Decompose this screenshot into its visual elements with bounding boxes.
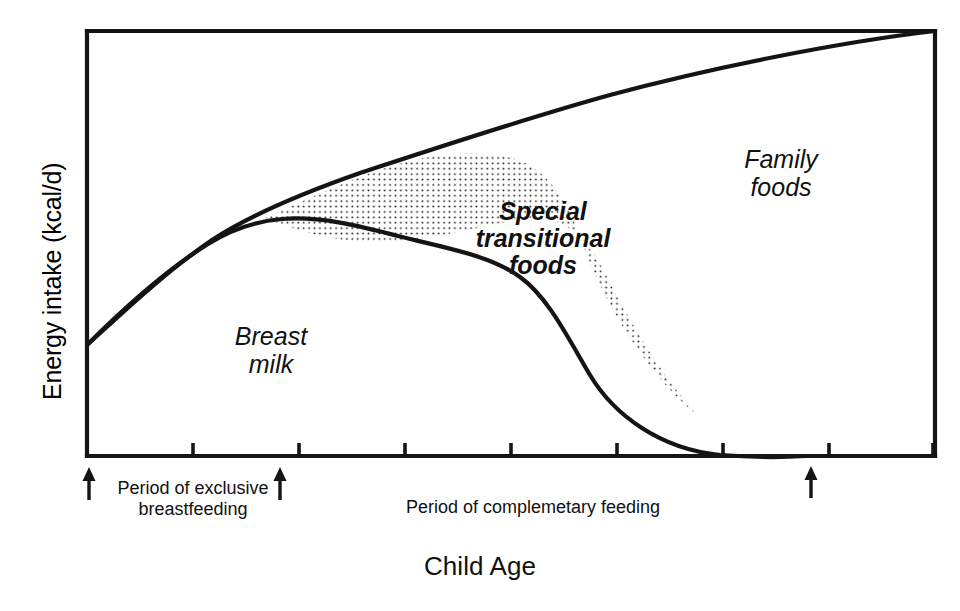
- label-breast-milk-line1: Breast: [235, 322, 307, 350]
- label-exclusive-line1: Period of exclusive: [117, 478, 268, 498]
- energy-intake-chart: Energy intake (kcal/d) Breastmilk Specia…: [0, 0, 960, 611]
- label-family-foods: Familyfoods: [706, 145, 856, 201]
- label-period-exclusive-breastfeeding: Period of exclusivebreastfeeding: [83, 478, 303, 520]
- arrow-complementary-end-icon: [805, 466, 818, 498]
- x-axis-title: Child Age: [0, 552, 960, 581]
- label-family-line2: foods: [750, 173, 811, 201]
- label-breast-milk-line2: milk: [249, 350, 293, 378]
- label-special-line3: foods: [509, 251, 577, 279]
- breast-milk-curve: [87, 218, 806, 457]
- special-transitional-foods-area: [265, 153, 706, 421]
- label-special-transitional-foods: Specialtransitionalfoods: [458, 198, 628, 278]
- label-period-complementary-feeding: Period of complemetary feeding: [368, 497, 698, 517]
- y-axis-title-text: Energy intake (kcal/d): [38, 163, 67, 400]
- label-breast-milk: Breastmilk: [196, 322, 346, 378]
- label-exclusive-line2: breastfeeding: [138, 499, 247, 519]
- label-special-line1: Special: [499, 197, 587, 225]
- label-special-line2: transitional: [476, 224, 611, 252]
- label-family-line1: Family: [744, 145, 818, 173]
